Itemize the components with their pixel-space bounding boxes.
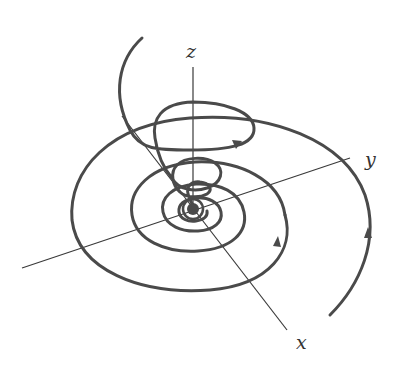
diagram-svg: [0, 0, 404, 367]
x-axis: [122, 116, 287, 330]
x-axis-label: x: [296, 333, 307, 352]
phase-portrait-diagram: z y x: [0, 0, 404, 367]
middle-spiral-trajectory: [132, 162, 285, 251]
direction-arrow-middle: [273, 236, 281, 247]
z-axis-label: z: [186, 42, 196, 61]
helix-trajectory: [120, 38, 254, 206]
y-axis-label: y: [365, 150, 376, 169]
